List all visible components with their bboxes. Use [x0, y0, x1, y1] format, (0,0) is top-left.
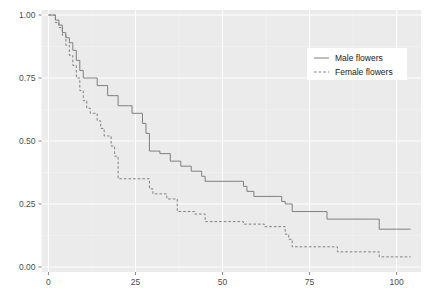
y-tick-label: 0.50: [19, 136, 36, 146]
x-tick-label: 0: [46, 277, 51, 287]
y-tick-label: 0.25: [19, 199, 36, 209]
legend-label-female-flowers: Female flowers: [335, 67, 393, 77]
y-tick-label: 0.00: [19, 262, 36, 272]
chart-container: 02550751000.000.250.500.751.00Male flowe…: [0, 0, 429, 296]
x-tick-label: 100: [390, 277, 404, 287]
y-tick-label: 1.00: [19, 10, 36, 20]
x-tick-label: 50: [218, 277, 228, 287]
y-tick-label: 0.75: [19, 73, 36, 83]
legend[interactable]: Male flowersFemale flowers: [307, 48, 407, 80]
x-tick-label: 25: [131, 277, 141, 287]
x-tick-label: 75: [305, 277, 315, 287]
legend-label-male-flowers: Male flowers: [335, 53, 383, 63]
survival-chart: 02550751000.000.250.500.751.00Male flowe…: [0, 0, 429, 296]
